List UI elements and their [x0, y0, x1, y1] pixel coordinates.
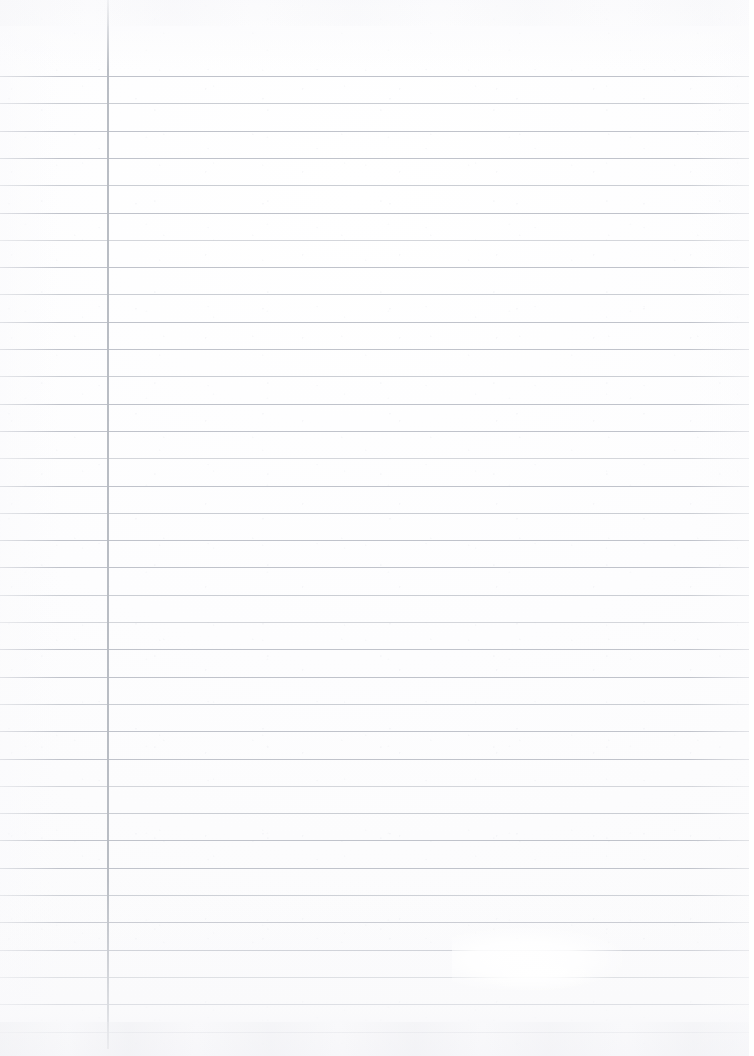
rule-line: [0, 786, 754, 787]
rule-line: [0, 649, 754, 650]
rule-line: [0, 922, 754, 923]
rule-line: [0, 103, 754, 104]
rule-line: [0, 158, 754, 159]
rule-line: [0, 622, 754, 623]
rule-line: [0, 294, 754, 295]
rule-line: [0, 185, 754, 186]
rule-line: [0, 1004, 754, 1005]
rule-line: [0, 704, 754, 705]
rule-line: [0, 349, 754, 350]
rule-line: [0, 840, 754, 841]
rule-line: [0, 950, 754, 951]
rule-line: [0, 267, 754, 268]
rule-line: [0, 895, 754, 896]
rule-line: [0, 595, 754, 596]
rule-line: [0, 813, 754, 814]
rule-line: [0, 540, 754, 541]
rule-line: [0, 513, 754, 514]
rule-line: [0, 213, 754, 214]
rule-line: [0, 376, 754, 377]
rule-line: [0, 431, 754, 432]
rule-line: [0, 567, 754, 568]
vertical-margin-rule: [107, 0, 109, 1049]
rule-line: [0, 677, 754, 678]
scanned-page: [0, 0, 754, 1056]
rule-line: [0, 1032, 754, 1033]
rule-line: [0, 731, 754, 732]
rule-line: [0, 131, 754, 132]
rule-line: [0, 240, 754, 241]
rule-line: [0, 759, 754, 760]
rule-line: [0, 977, 754, 978]
rule-line: [0, 868, 754, 869]
rule-line: [0, 486, 754, 487]
rule-line: [0, 458, 754, 459]
rule-line: [0, 322, 754, 323]
rule-line: [0, 76, 754, 77]
rule-line: [0, 404, 754, 405]
